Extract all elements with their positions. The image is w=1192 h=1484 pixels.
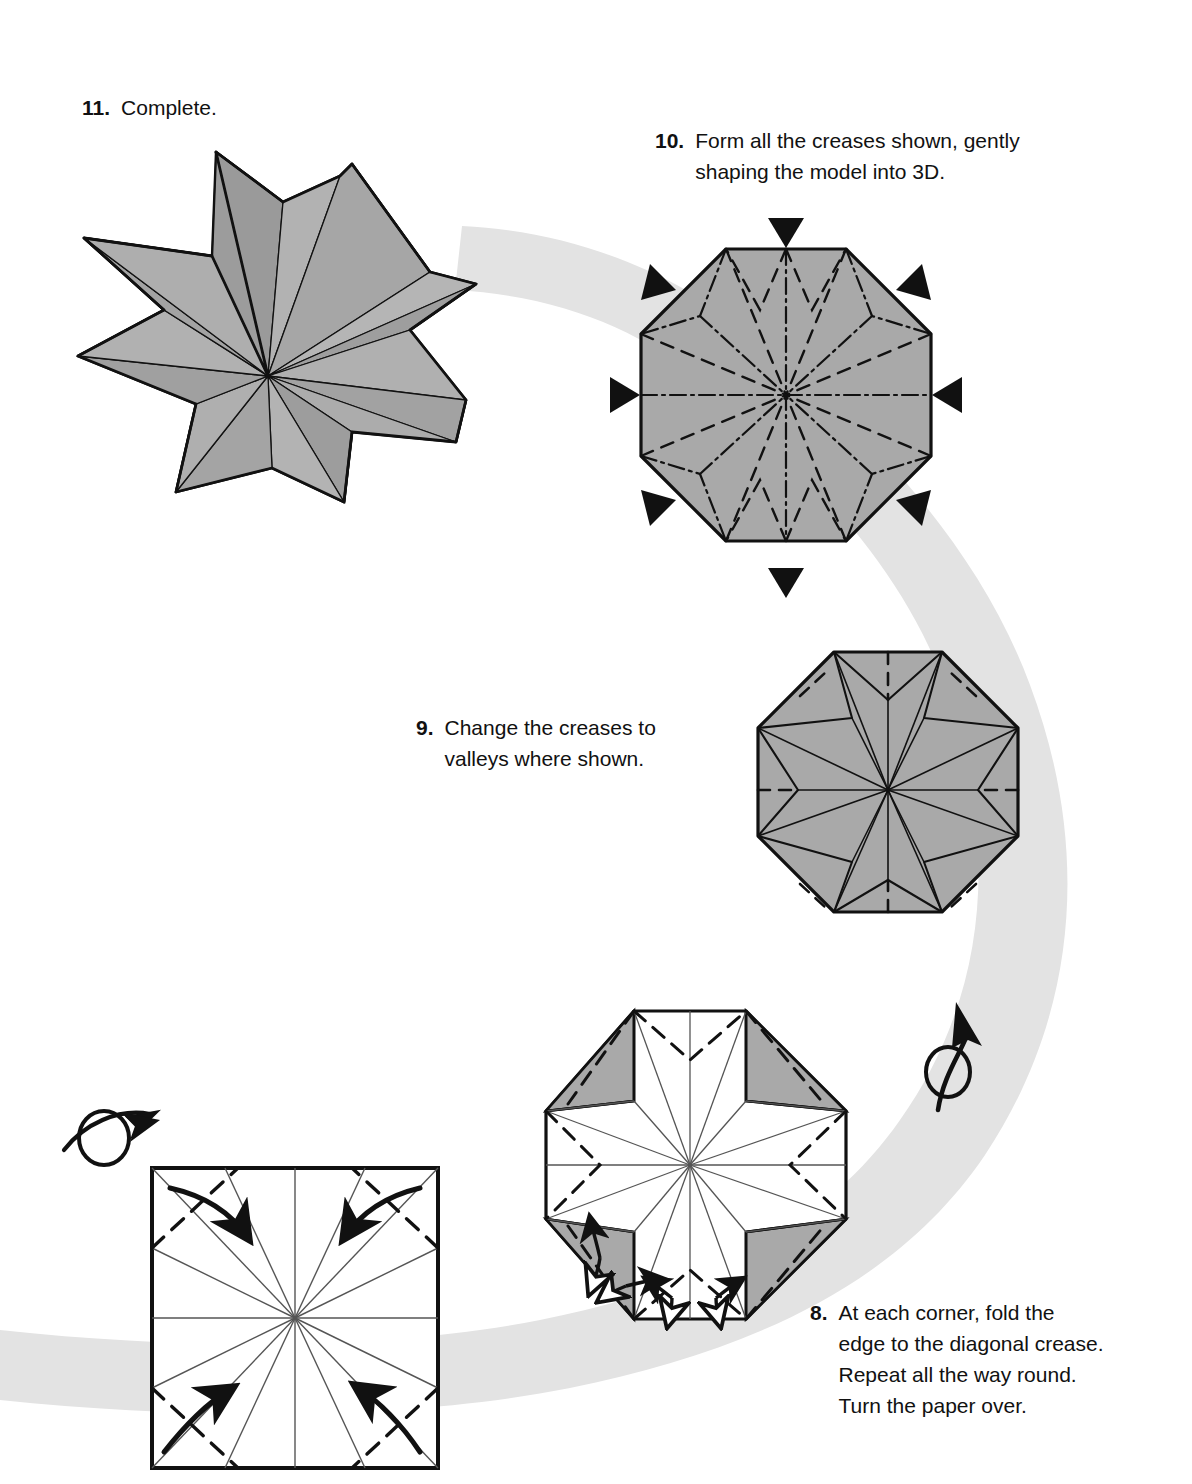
push-arrow-ne [896, 264, 931, 300]
origami-instruction-page: 11. Complete. 10. Form all the creases s… [0, 0, 1192, 1484]
figure-step-8-octagon [546, 1011, 846, 1324]
push-arrow-e [932, 377, 962, 413]
turn-over-arrow-left [64, 1103, 161, 1165]
push-arrow-s [768, 568, 804, 598]
push-arrow-se [896, 490, 931, 526]
push-arrow-sw [641, 490, 676, 526]
figure-step-10-crease-octagon [610, 218, 962, 598]
figures-layer [0, 0, 1192, 1484]
push-arrow-nw [641, 264, 676, 300]
turn-over-arrow-right [926, 1002, 982, 1110]
figure-step-9-pinwheel-octagon [758, 652, 1018, 912]
figure-step-7-square [152, 1168, 438, 1468]
push-arrow-n [768, 218, 804, 248]
push-arrow-w [610, 377, 640, 413]
figure-step-11-finished-star [78, 152, 476, 502]
